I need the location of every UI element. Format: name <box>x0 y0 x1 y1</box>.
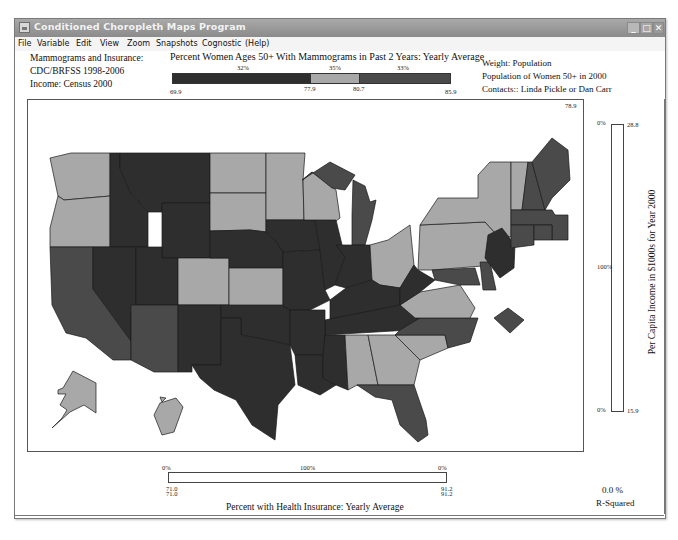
menu-view[interactable]: View <box>100 39 119 48</box>
population-label: Population of Women 50+ in 2000 <box>482 71 606 81</box>
legend-pct-low: 32% <box>237 64 249 71</box>
maximize-button[interactable]: □ <box>640 22 653 34</box>
map-corner-value: 78.9 <box>565 102 576 109</box>
data-source: CDC/BRFSS 1998-2006 <box>30 66 124 76</box>
income-axis-label: Per Capita Income in $1000s for Year 200… <box>647 190 657 355</box>
r-squared-value: 0.0 % <box>602 485 623 495</box>
hslider-mid-pct: 100% <box>300 464 315 471</box>
weight-label: Weight: Population <box>482 58 552 68</box>
window-right-edge <box>664 99 665 514</box>
insurance-axis-label: Percent with Health Insurance: Yearly Av… <box>226 502 404 512</box>
menu-file[interactable]: File <box>18 39 31 48</box>
vslider-top-pct: 0% <box>597 119 606 126</box>
legend-class-low[interactable] <box>172 73 311 84</box>
hslider-left-value-2[interactable]: 71.0 <box>166 490 177 497</box>
vslider-top-value[interactable]: 28.8 <box>627 121 638 128</box>
legend-pct-high: 33% <box>397 64 409 71</box>
income-slider[interactable] <box>611 124 624 412</box>
menu-bar: File Variable Edit View Zoom Snapshots C… <box>15 37 665 51</box>
income-source: Income: Census 2000 <box>30 79 112 89</box>
legend-break-max: 85.9 <box>445 88 456 95</box>
title-bar[interactable]: Conditioned Choropleth Maps Program _ □ … <box>15 19 665 37</box>
menu-edit[interactable]: Edit <box>76 39 92 48</box>
map-panel[interactable] <box>27 99 584 452</box>
legend-class-mid[interactable] <box>310 73 360 84</box>
hslider-right-value-2[interactable]: 91.2 <box>441 490 452 497</box>
hslider-left-pct: 0% <box>162 464 171 471</box>
legend-break-min: 69.9 <box>170 88 181 95</box>
legend-class-high[interactable] <box>359 73 451 84</box>
vslider-bottom-value[interactable]: 15.9 <box>627 407 638 414</box>
vslider-bottom-pct: 0% <box>597 406 606 413</box>
legend-break-1[interactable]: 77.9 <box>304 85 315 92</box>
dataset-title: Mammograms and Insurance: <box>30 53 143 63</box>
window-title: Conditioned Choropleth Maps Program <box>34 21 246 32</box>
legend-break-2[interactable]: 80.7 <box>353 85 364 92</box>
menu-cognostic[interactable]: Cognostic <box>202 39 241 48</box>
close-button[interactable]: ✕ <box>653 22 664 34</box>
menu-variable[interactable]: Variable <box>37 39 69 48</box>
contacts-label: Contacts:: Linda Pickle or Dan Carr <box>482 84 612 94</box>
minimize-button[interactable]: _ <box>627 22 640 34</box>
menu-zoom[interactable]: Zoom <box>127 39 150 48</box>
menu-snapshots[interactable]: Snapshots <box>156 39 198 48</box>
legend-pct-mid: 35% <box>329 64 341 71</box>
legend-title: Percent Women Ages 50+ With Mammograms i… <box>170 51 484 62</box>
java-app-icon <box>19 22 30 33</box>
vslider-mid-pct: 100% <box>597 263 612 270</box>
window-bottom-edge <box>14 515 664 516</box>
hslider-right-pct: 0% <box>438 464 447 471</box>
r-squared-label: R-Squared <box>596 498 635 508</box>
insurance-slider[interactable] <box>168 472 447 483</box>
menu-help[interactable]: (Help) <box>245 39 269 48</box>
